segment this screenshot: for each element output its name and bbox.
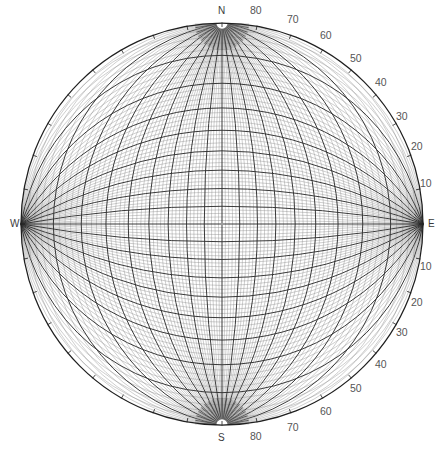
degree-label-170: 80 bbox=[250, 431, 262, 442]
degree-label-100: 10 bbox=[420, 261, 432, 272]
degree-label-110: 20 bbox=[411, 297, 423, 308]
degree-label-60: 30 bbox=[396, 111, 408, 122]
degree-label-70: 20 bbox=[411, 141, 423, 152]
degree-label-50: 40 bbox=[375, 77, 387, 88]
wulff-net-graphic bbox=[0, 0, 443, 451]
degree-label-140: 50 bbox=[350, 383, 362, 394]
degree-label-10: 80 bbox=[250, 5, 262, 16]
degree-label-160: 70 bbox=[287, 422, 299, 433]
cardinal-label-west: W bbox=[10, 219, 19, 229]
degree-label-20: 70 bbox=[287, 14, 299, 25]
stereonet-figure: NESW80706050403020101020304050607080 bbox=[0, 0, 443, 451]
degree-label-130: 40 bbox=[375, 359, 387, 370]
center-point bbox=[221, 223, 224, 226]
degree-label-40: 50 bbox=[350, 53, 362, 64]
cardinal-label-south: S bbox=[218, 433, 225, 443]
cardinal-label-north: N bbox=[218, 6, 225, 16]
degree-label-80: 10 bbox=[420, 178, 432, 189]
degree-label-150: 60 bbox=[320, 406, 332, 417]
degree-label-120: 30 bbox=[396, 327, 408, 338]
degree-label-30: 60 bbox=[320, 30, 332, 41]
cardinal-label-east: E bbox=[428, 219, 435, 229]
